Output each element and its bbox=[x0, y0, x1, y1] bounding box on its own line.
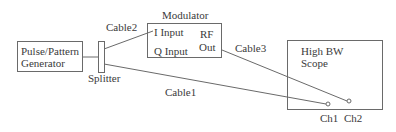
scope-label-line1: High BW bbox=[301, 45, 343, 57]
scope-ch2-label: Ch2 bbox=[344, 112, 362, 124]
modulator-title: Modulator bbox=[162, 9, 208, 21]
modulator-i-input: I Input bbox=[154, 26, 184, 38]
cable2-label: Cable2 bbox=[106, 21, 137, 33]
generator-label-line2: Generator bbox=[21, 57, 65, 69]
cable1-label: Cable1 bbox=[165, 86, 196, 98]
generator-label-line1: Pulse/Pattern bbox=[21, 45, 79, 57]
splitter-label: Splitter bbox=[88, 72, 120, 84]
modulator-rf-out-line2: Out bbox=[199, 41, 216, 53]
scope-ch1-label: Ch1 bbox=[320, 112, 338, 124]
modulator-rf-out-line1: RF bbox=[200, 28, 213, 40]
cable3-label: Cable3 bbox=[235, 42, 266, 54]
modulator-q-input: Q Input bbox=[154, 45, 188, 57]
scope-label-line2: Scope bbox=[301, 57, 328, 69]
